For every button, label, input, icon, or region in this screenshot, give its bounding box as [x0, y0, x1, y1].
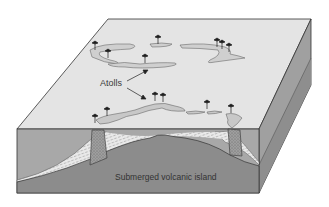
atoll-diagram: Atolls Submerged volcanic island: [0, 0, 329, 207]
label-atolls: Atolls: [100, 78, 122, 88]
label-submerged-volcanic-island: Submerged volcanic island: [115, 172, 217, 182]
reef-column-right: [228, 129, 242, 156]
